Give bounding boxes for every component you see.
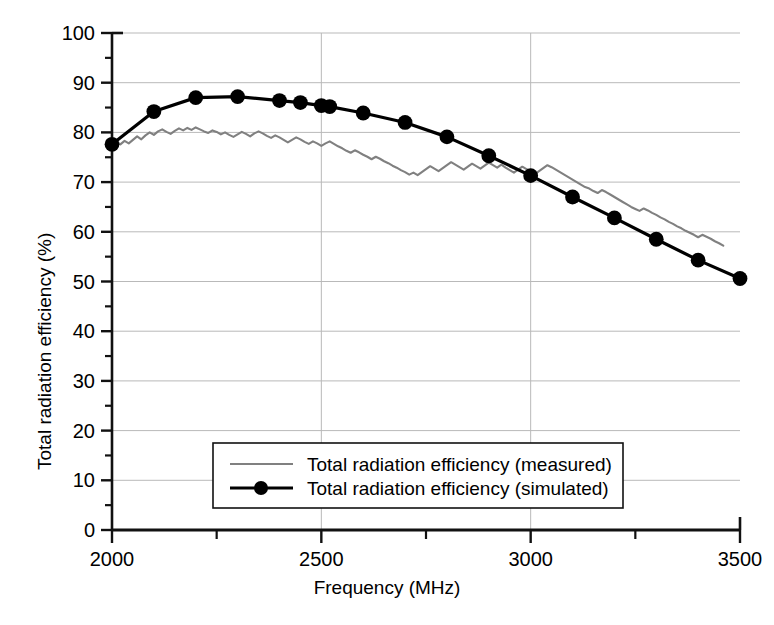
chart-legend: Total radiation efficiency (measured)Tot… xyxy=(213,443,623,508)
simulated-data-point xyxy=(398,115,413,130)
simulated-data-point xyxy=(188,90,203,105)
y-axis-title: Total radiation efficiency (%) xyxy=(34,233,56,470)
y-tick-label: 20 xyxy=(73,420,95,442)
simulated-data-point xyxy=(322,99,337,114)
x-tick-label: 2500 xyxy=(299,548,344,570)
y-tick-label: 0 xyxy=(84,519,95,541)
x-axis-title: Frequency (MHz) xyxy=(0,577,774,599)
y-tick-label: 100 xyxy=(62,22,95,44)
y-tick-label: 50 xyxy=(73,271,95,293)
legend-label-measured: Total radiation efficiency (measured) xyxy=(307,454,612,475)
simulated-data-point xyxy=(230,89,245,104)
simulated-data-point xyxy=(272,93,287,108)
simulated-data-point xyxy=(565,190,580,205)
simulated-data-point xyxy=(440,129,455,144)
legend-marker-simulated xyxy=(254,481,268,495)
y-tick-label: 60 xyxy=(73,221,95,243)
simulated-data-point xyxy=(105,137,120,152)
simulated-data-point xyxy=(649,232,664,247)
series-simulated xyxy=(105,89,748,286)
x-tick-label: 3500 xyxy=(718,548,763,570)
simulated-line xyxy=(112,97,740,279)
radiation-efficiency-chart: 01020304050607080901002000250030003500 T… xyxy=(0,0,774,625)
y-tick-label: 70 xyxy=(73,171,95,193)
simulated-data-point xyxy=(733,271,748,286)
simulated-data-point xyxy=(293,95,308,110)
y-tick-label: 90 xyxy=(73,72,95,94)
x-tick-label: 3000 xyxy=(508,548,553,570)
simulated-data-point xyxy=(146,104,161,119)
y-tick-label: 40 xyxy=(73,320,95,342)
y-tick-label: 80 xyxy=(73,121,95,143)
simulated-data-point xyxy=(481,148,496,163)
simulated-data-point xyxy=(607,210,622,225)
simulated-data-point xyxy=(523,168,538,183)
chart-figure: 01020304050607080901002000250030003500 T… xyxy=(0,0,774,625)
legend-label-simulated: Total radiation efficiency (simulated) xyxy=(307,478,609,499)
y-tick-label: 30 xyxy=(73,370,95,392)
simulated-data-point xyxy=(356,106,371,121)
simulated-data-point xyxy=(691,253,706,268)
y-tick-label: 10 xyxy=(73,469,95,491)
x-tick-label: 2000 xyxy=(90,548,135,570)
